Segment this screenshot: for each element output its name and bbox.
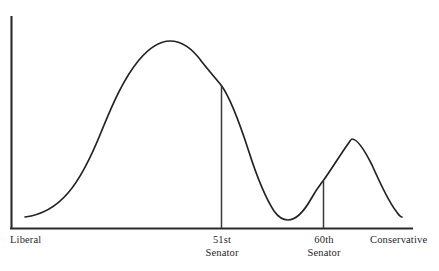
axis-label-51st-senator-line1: 51st (213, 234, 231, 245)
axis-label-60th-senator-line2: Senator (307, 247, 340, 260)
axis-label-60th-senator-line1: 60th (314, 234, 333, 245)
distribution-plot (0, 0, 439, 271)
chart-figure: Liberal 51st Senator 60th Senator Conser… (0, 0, 439, 271)
axis-label-conservative: Conservative (370, 234, 427, 247)
axis-label-51st-senator-line2: Senator (205, 247, 238, 260)
axis-label-60th-senator: 60th Senator (307, 234, 340, 259)
senator-density-curve (25, 41, 402, 220)
axis-label-liberal: Liberal (10, 234, 41, 247)
axis-label-51st-senator: 51st Senator (205, 234, 238, 259)
